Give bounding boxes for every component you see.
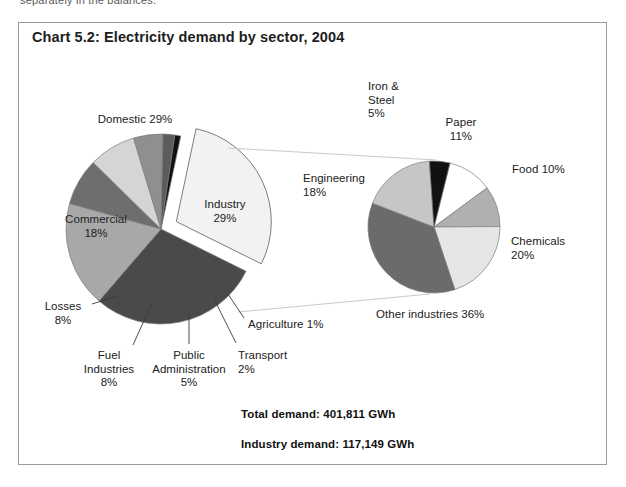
label-other-industries: Other industries 36%	[376, 308, 526, 322]
label-paper: Paper 11%	[432, 116, 490, 143]
total-demand-text: Total demand: 401,811 GWh	[241, 407, 471, 422]
label-fuel-industries: Fuel Industries 8%	[76, 349, 142, 390]
label-public-administration: Public Administration 5%	[142, 349, 236, 390]
totals-block: Total demand: 401,811 GWh Industry deman…	[241, 392, 471, 467]
label-transport: Transport 2%	[238, 349, 310, 376]
label-domestic: Domestic 29%	[60, 113, 210, 127]
label-iron-steel: Iron & Steel 5%	[368, 80, 438, 121]
label-engineering: Engineering 18%	[303, 172, 383, 199]
page-canvas: separately in the balances. Chart 5.2: E…	[0, 0, 626, 487]
label-chemicals: Chemicals 20%	[511, 235, 595, 262]
cutoff-body-text: separately in the balances.	[20, 0, 156, 8]
industry-demand-text: Industry demand: 117,149 GWh	[241, 437, 471, 452]
label-losses: Losses 8%	[36, 300, 90, 327]
label-food: Food 10%	[512, 163, 592, 177]
label-agriculture: Agriculture 1%	[248, 318, 348, 332]
chart-title: Chart 5.2: Electricity demand by sector,…	[32, 29, 344, 45]
label-industry: Industry 29%	[190, 198, 260, 225]
label-commercial: Commercial 18%	[50, 213, 142, 240]
